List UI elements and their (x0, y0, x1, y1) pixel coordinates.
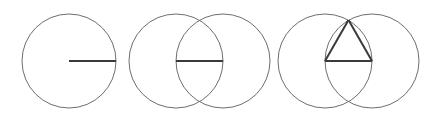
segment-3 (349, 20, 373, 61)
panel-step-1 (22, 14, 116, 108)
segment-2 (325, 20, 349, 61)
panel-step-2 (129, 14, 270, 108)
euclid-construction-diagram (0, 0, 436, 122)
panel-step-3 (278, 14, 419, 108)
